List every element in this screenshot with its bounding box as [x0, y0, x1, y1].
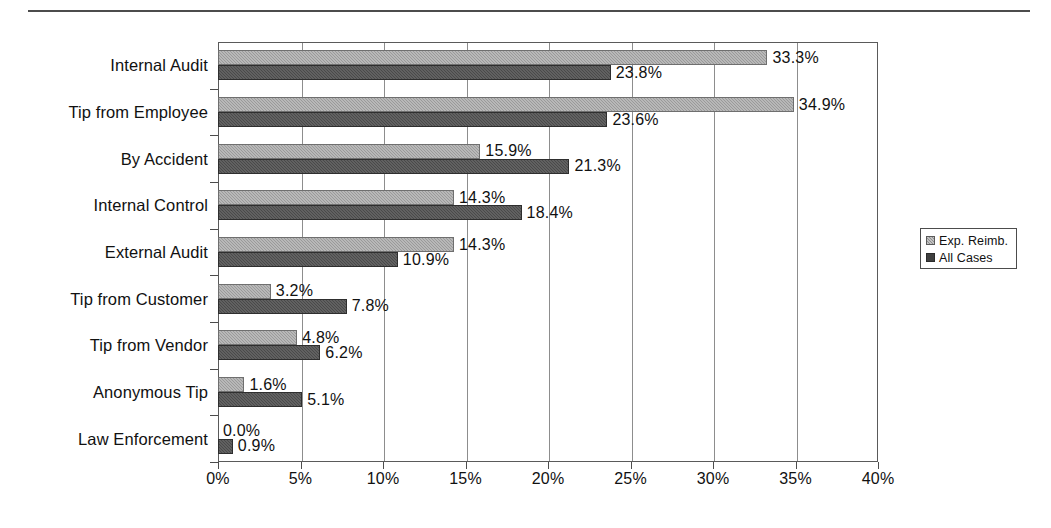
bar-exp-reimb [218, 50, 767, 65]
x-axis-tick-label: 40% [862, 470, 895, 488]
y-axis-tick [210, 462, 218, 463]
bar-value-label: 5.1% [307, 391, 344, 409]
y-axis-tick [210, 275, 218, 276]
legend-label: Exp. Reimb. [939, 234, 1008, 248]
legend-swatch-icon [926, 236, 935, 245]
legend-item: All Cases [926, 249, 1012, 266]
category-label: Tip from Customer [70, 289, 208, 308]
bar-value-label: 3.2% [276, 282, 313, 300]
detection-method-bar-chart: 0%5%10%15%20%25%30%35%40%Internal Audit3… [0, 0, 1051, 528]
category-label: External Audit [105, 243, 208, 262]
bar-all-cases [218, 392, 302, 407]
bar-all-cases [218, 205, 522, 220]
y-axis-tick [210, 322, 218, 323]
bar-value-label: 15.9% [485, 142, 531, 160]
x-axis-tick-label: 10% [367, 470, 400, 488]
bar-all-cases [218, 345, 320, 360]
x-axis-tick [548, 462, 549, 469]
x-axis-tick-label: 35% [779, 470, 812, 488]
legend-swatch-icon [926, 253, 935, 262]
category-label: By Accident [121, 149, 208, 168]
category-label: Internal Audit [110, 56, 208, 75]
bar-value-label: 6.2% [325, 344, 362, 362]
bar-value-label: 23.8% [616, 64, 662, 82]
bar-exp-reimb [218, 190, 454, 205]
x-axis-tick [878, 462, 879, 469]
bar-value-label: 21.3% [574, 157, 620, 175]
legend-item: Exp. Reimb. [926, 232, 1012, 249]
chart-page: 0%5%10%15%20%25%30%35%40%Internal Audit3… [0, 0, 1051, 528]
y-axis-tick [210, 369, 218, 370]
legend-label: All Cases [939, 251, 993, 265]
bar-exp-reimb [218, 284, 271, 299]
y-axis-tick [210, 229, 218, 230]
category-label: Tip from Employee [68, 103, 208, 122]
bar-exp-reimb [218, 377, 244, 392]
chart-legend: Exp. Reimb.All Cases [920, 228, 1017, 269]
y-axis-tick [210, 182, 218, 183]
bar-all-cases [218, 159, 569, 174]
bar-value-label: 18.4% [527, 204, 573, 222]
x-axis-tick [301, 462, 302, 469]
category-label: Law Enforcement [78, 429, 208, 448]
bar-all-cases [218, 299, 347, 314]
x-axis-tick [631, 462, 632, 469]
bar-exp-reimb [218, 330, 297, 345]
y-axis-tick [210, 415, 218, 416]
x-gridline [797, 43, 798, 461]
bar-exp-reimb [218, 97, 794, 112]
x-axis-tick [218, 462, 219, 469]
x-axis-tick [383, 462, 384, 469]
x-axis-tick-label: 15% [449, 470, 482, 488]
bar-value-label: 33.3% [772, 49, 818, 67]
bar-value-label: 0.9% [238, 437, 275, 455]
x-axis-tick-label: 0% [206, 470, 230, 488]
x-axis-tick-label: 5% [289, 470, 313, 488]
x-axis-tick-label: 20% [532, 470, 565, 488]
bar-value-label: 14.3% [459, 189, 505, 207]
category-label: Tip from Vendor [90, 336, 208, 355]
bar-all-cases [218, 112, 607, 127]
bar-exp-reimb [218, 144, 480, 159]
x-axis-tick [796, 462, 797, 469]
bar-value-label: 10.9% [403, 251, 449, 269]
bar-value-label: 14.3% [459, 236, 505, 254]
bar-value-label: 7.8% [352, 297, 389, 315]
x-axis-tick [466, 462, 467, 469]
bar-value-label: 34.9% [799, 96, 845, 114]
category-label: Internal Control [94, 196, 208, 215]
y-axis-tick [210, 89, 218, 90]
bar-value-label: 23.6% [612, 111, 658, 129]
y-axis-tick [210, 135, 218, 136]
bar-all-cases [218, 252, 398, 267]
bar-value-label: 1.6% [249, 376, 286, 394]
x-axis-tick-label: 25% [614, 470, 647, 488]
bar-all-cases [218, 439, 233, 454]
x-axis-tick [713, 462, 714, 469]
category-label: Anonymous Tip [93, 383, 208, 402]
x-axis-tick-label: 30% [697, 470, 730, 488]
bar-all-cases [218, 65, 611, 80]
